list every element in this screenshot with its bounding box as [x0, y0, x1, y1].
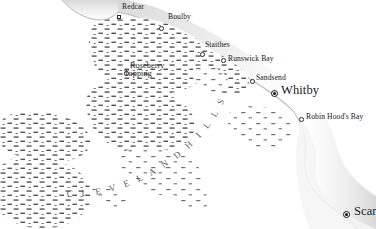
marker-robin-hoods-bay[interactable]: [299, 117, 304, 122]
label-runswick-bay: Runswick Bay: [228, 55, 274, 63]
label-robin-hoods-bay: Robin Hood's Bay: [306, 113, 363, 121]
moorland-patch-c: [174, 185, 210, 210]
label-whitby: Whitby: [281, 84, 319, 97]
label-sandsend: Sandsend: [256, 74, 286, 82]
moorland-southwest: [0, 158, 91, 228]
marker-runswick-bay[interactable]: [221, 58, 226, 63]
label-staithes: Staithes: [205, 41, 230, 49]
label-roseberry-topping: Roseberry Topping: [130, 62, 165, 79]
marker-redcar[interactable]: [117, 15, 121, 19]
marker-sandsend[interactable]: [250, 79, 255, 84]
moorland-patch-d: [92, 185, 128, 210]
moorland-west: [0, 112, 90, 163]
map-canvas: C L E V E L A N D H I L L S Redcar Boulb…: [0, 0, 376, 229]
label-scarborough: Scar: [354, 205, 376, 218]
label-redcar: Redcar: [122, 3, 144, 11]
label-roseberry-topping-line2: Topping: [124, 70, 165, 78]
label-boulby: Boulby: [168, 13, 191, 21]
marker-boulby[interactable]: [159, 26, 164, 31]
marker-staithes[interactable]: [200, 52, 205, 57]
